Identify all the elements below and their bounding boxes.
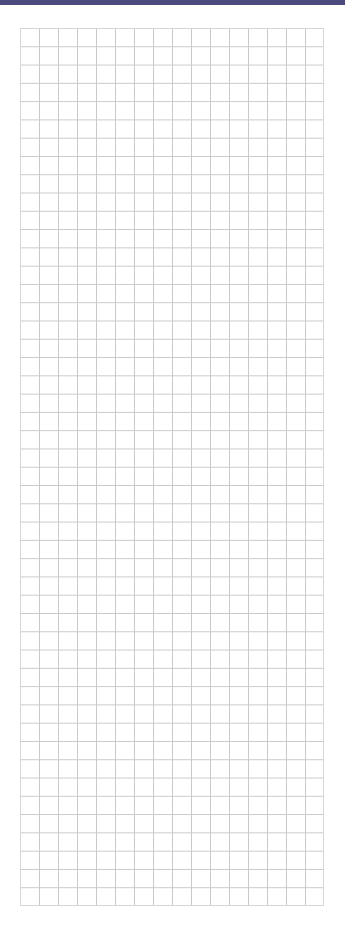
graph-paper-grid	[20, 28, 324, 906]
top-accent-bar	[0, 0, 345, 5]
